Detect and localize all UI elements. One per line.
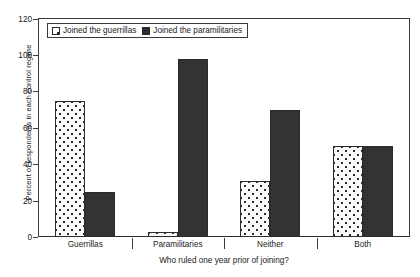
x-tick-label-neither: Neither bbox=[224, 240, 317, 249]
plot-area bbox=[39, 19, 409, 237]
bar-both-joined-paramilitaries bbox=[363, 146, 393, 237]
legend-label-joined-guerrillas: Joined the guerrillas bbox=[63, 26, 136, 35]
x-axis-category-labels: Guerrillas Paramilitaries Neither Both bbox=[39, 240, 409, 249]
legend-label-joined-paramilitaries: Joined the paramilitaries bbox=[153, 26, 242, 35]
y-tick-label-60: 60 bbox=[8, 124, 32, 133]
y-tick-label-120: 120 bbox=[8, 15, 32, 24]
y-tick-label-0: 0 bbox=[8, 233, 32, 242]
bar-groups bbox=[39, 19, 409, 237]
bar-neither-joined-guerrillas bbox=[240, 181, 270, 237]
legend-item-joined-guerrillas: Joined the guerrillas bbox=[52, 26, 136, 35]
bar-group-both bbox=[317, 19, 410, 237]
y-tick-label-100: 100 bbox=[8, 51, 32, 60]
dotted-square-icon bbox=[52, 27, 60, 35]
bar-chart: Percent of respondents in each control r… bbox=[0, 0, 420, 277]
legend-item-joined-paramilitaries: Joined the paramilitaries bbox=[142, 26, 242, 35]
x-tick-label-both: Both bbox=[317, 240, 410, 249]
y-tick-label-20: 20 bbox=[8, 197, 32, 206]
bar-both-joined-guerrillas bbox=[333, 146, 363, 237]
bar-group-neither bbox=[224, 19, 317, 237]
solid-square-icon bbox=[142, 27, 150, 35]
y-tick-label-40: 40 bbox=[8, 160, 32, 169]
legend: Joined the guerrillas Joined the paramil… bbox=[47, 23, 248, 38]
x-tick-label-paramilitaries: Paramilitaries bbox=[132, 240, 225, 249]
x-axis-title: Who ruled one year prior of joining? bbox=[39, 256, 409, 265]
y-axis-title: Percent of respondents in each control r… bbox=[24, 18, 33, 228]
x-tick-label-guerrillas: Guerrillas bbox=[39, 240, 132, 249]
bar-guerrillas-joined-guerrillas bbox=[55, 101, 85, 237]
bar-group-guerrillas bbox=[39, 19, 132, 237]
bar-group-paramilitaries bbox=[132, 19, 225, 237]
y-tick-mark-0 bbox=[33, 237, 38, 238]
bar-guerrillas-joined-paramilitaries bbox=[85, 192, 115, 237]
x-axis-baseline bbox=[39, 236, 409, 237]
y-tick-label-80: 80 bbox=[8, 87, 32, 96]
bar-paramilitaries-joined-paramilitaries bbox=[178, 59, 208, 237]
bar-neither-joined-paramilitaries bbox=[270, 110, 300, 237]
